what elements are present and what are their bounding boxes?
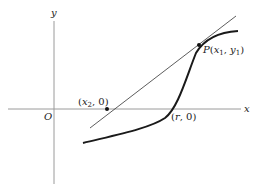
- y-axis-label: y: [50, 7, 57, 18]
- tangent-point-label: P(x1, y1): [202, 44, 244, 57]
- root-label: (r, 0): [171, 111, 196, 122]
- tangent-intercept-point: [105, 107, 109, 111]
- tangent-point-p: [197, 43, 201, 47]
- diagram-canvas: y x O (x2, 0) (r, 0) P(x1, y1): [0, 0, 262, 196]
- tangent-intercept-label: (x2, 0): [78, 96, 109, 109]
- origin-label: O: [44, 111, 52, 122]
- x-axis-label: x: [244, 103, 250, 114]
- tangent-line: [90, 16, 236, 128]
